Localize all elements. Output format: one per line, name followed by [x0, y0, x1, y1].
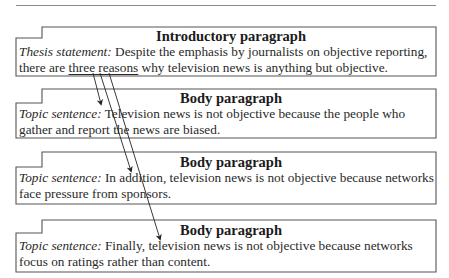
- arrow-to-body-3: [109, 73, 160, 239]
- arrow-to-body-1: [93, 73, 101, 104]
- arrows-layer: [0, 0, 449, 278]
- arrow-to-body-2: [100, 73, 131, 171]
